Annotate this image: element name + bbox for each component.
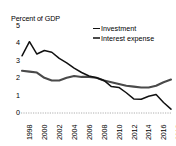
x-axis-labels: 1998 2000 2002 2004 2006 2008 2010 2012 … [0,113,176,146]
x-axis-tick-2014: 2014 [144,125,153,140]
series-line-interest-expense [22,71,171,88]
x-axis-tick-2012: 2012 [130,125,139,140]
x-axis-tick-2004: 2004 [70,125,79,140]
x-axis-tick-2010: 2010 [115,125,124,140]
chart-container: Percent of GDP 5 4 3 2 1 0 Investment In… [0,0,176,146]
x-axis-tick-2008: 2008 [100,125,109,140]
x-axis-tick-2016: 2016 [159,125,168,140]
x-axis-tick-2002: 2002 [55,125,64,140]
x-axis-tick-2006: 2006 [85,125,94,140]
series-line-investment [22,42,171,109]
x-axis-tick-2018: 2018 [174,125,176,140]
x-axis-tick-2000: 2000 [40,125,49,140]
x-axis-tick-1998: 1998 [25,125,34,140]
